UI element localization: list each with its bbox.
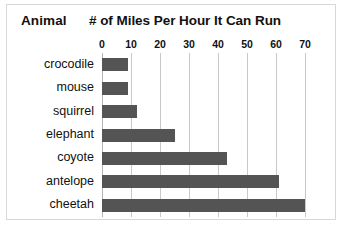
gridline-50: [247, 53, 248, 217]
x-tick-label-30: 30: [183, 38, 195, 50]
category-labels: crocodilemousesquirrelelephantcoyoteante…: [13, 53, 94, 217]
gridline-60: [276, 53, 277, 217]
category-label-crocodile: crocodile: [44, 57, 94, 71]
category-label-antelope: antelope: [46, 174, 94, 188]
chart-card: Animal # of Miles Per Hour It Can Run cr…: [6, 4, 336, 220]
category-label-elephant: elephant: [46, 127, 94, 141]
bar-antelope: [102, 175, 279, 188]
bar-mouse: [102, 82, 128, 95]
gridline-30: [189, 53, 190, 217]
category-label-squirrel: squirrel: [53, 104, 94, 118]
x-tick-label-20: 20: [154, 38, 166, 50]
x-tick-label-50: 50: [241, 38, 253, 50]
gridline-40: [218, 53, 219, 217]
x-tick-label-60: 60: [270, 38, 282, 50]
bar-crocodile: [102, 58, 128, 71]
x-tick-label-10: 10: [125, 38, 137, 50]
category-label-mouse: mouse: [56, 80, 94, 94]
value-column-header: # of Miles Per Hour It Can Run: [89, 13, 281, 28]
x-tick-label-0: 0: [99, 38, 105, 50]
category-label-coyote: coyote: [57, 150, 94, 164]
gridline-70: [305, 53, 306, 217]
category-label-cheetah: cheetah: [50, 197, 94, 211]
x-tick-label-40: 40: [212, 38, 224, 50]
category-column-header: Animal: [21, 13, 67, 28]
plot-area: 010203040506070: [102, 53, 305, 217]
bar-cheetah: [102, 199, 305, 212]
chart-header: Animal # of Miles Per Hour It Can Run: [7, 5, 335, 37]
x-tick-label-70: 70: [299, 38, 311, 50]
bar-coyote: [102, 152, 227, 165]
bar-elephant: [102, 129, 175, 142]
bar-squirrel: [102, 105, 137, 118]
